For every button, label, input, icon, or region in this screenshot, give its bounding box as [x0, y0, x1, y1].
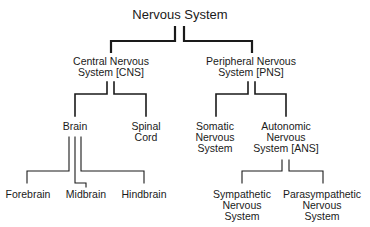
node-label-line: System	[213, 211, 271, 222]
node-spinal-cord: Spinal Cord	[131, 121, 160, 143]
node-label-line: Hindbrain	[122, 189, 167, 200]
nervous-system-tree-diagram: Nervous System Central Nervous System [C…	[0, 0, 370, 227]
node-label-line: Brain	[63, 121, 88, 132]
node-label-line: System [CNS]	[73, 67, 149, 78]
node-brain: Brain	[63, 121, 88, 132]
node-sympathetic-nervous-system: Sympathetic Nervous System	[213, 189, 271, 222]
node-parasympathetic-nervous-system: Parasympathetic Nervous System	[283, 189, 361, 222]
node-hindbrain: Hindbrain	[122, 189, 167, 200]
node-somatic-nervous-system: Somatic Nervous System	[195, 121, 234, 154]
node-label-line: Cord	[131, 132, 160, 143]
root-connectors	[111, 27, 252, 52]
node-midbrain: Midbrain	[66, 189, 106, 200]
node-label-line: System	[283, 211, 361, 222]
node-cns: Central Nervous System [CNS]	[73, 56, 149, 78]
node-label-line: System [PNS]	[206, 67, 296, 78]
pns-connectors	[216, 82, 286, 116]
node-pns: Peripheral Nervous System [PNS]	[206, 56, 296, 78]
node-autonomic-nervous-system: Autonomic Nervous System [ANS]	[253, 121, 318, 154]
node-label-line: Forebrain	[6, 189, 51, 200]
node-label-line: System [ANS]	[253, 143, 318, 154]
node-label-line: Midbrain	[66, 189, 106, 200]
cns-connectors	[75, 82, 146, 116]
node-label-line: System	[195, 143, 234, 154]
brain-connectors	[27, 137, 144, 187]
node-nervous-system: Nervous System	[132, 8, 227, 22]
node-forebrain: Forebrain	[6, 189, 51, 200]
node-label: Nervous System	[132, 8, 227, 22]
ans-connectors	[242, 160, 323, 183]
